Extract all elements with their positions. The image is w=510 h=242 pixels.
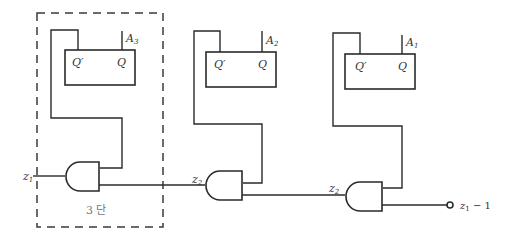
output-label: z1 − 1 <box>459 200 491 213</box>
q-label: Q <box>117 56 126 69</box>
input-z1-label: z1 <box>22 170 33 184</box>
and-gate-3: z2 z1 − 1 <box>328 182 491 213</box>
q-label: Q <box>398 60 407 73</box>
stage-label: 3 단 <box>86 204 107 217</box>
circuit-diagram: 3 단 Q′ Q A3 Q′ Q A2 Q′ Q A1 z1 z2 <box>0 0 510 242</box>
input-z3-label: z2 <box>328 182 340 196</box>
q-label: Q <box>258 58 267 71</box>
flip-flop-2: Q′ Q A2 <box>194 31 279 183</box>
output-a3-label: A3 <box>125 32 139 46</box>
stage-boundary <box>37 13 163 227</box>
output-a1-label: A1 <box>405 36 418 50</box>
and-gate-2: z2 <box>191 171 345 200</box>
output-terminal <box>447 202 453 208</box>
q-prime-label: Q′ <box>214 58 226 71</box>
flip-flop-1: Q′ Q A1 <box>333 33 418 188</box>
input-z2-label: z2 <box>191 173 203 187</box>
q-prime-label: Q′ <box>72 56 84 69</box>
and-gate-1: z1 <box>22 162 205 191</box>
flip-flop-3: Q′ Q A3 <box>51 30 139 168</box>
q-prime-label: Q′ <box>355 60 367 73</box>
output-a2-label: A2 <box>265 34 279 48</box>
